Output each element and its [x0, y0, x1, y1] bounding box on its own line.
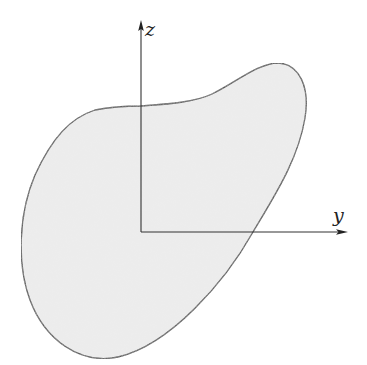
- cross-section-shape: [21, 63, 306, 358]
- z-axis-label: z: [144, 18, 156, 40]
- y-axis-label: y: [332, 204, 344, 226]
- cross-section-diagram: z y: [0, 0, 367, 365]
